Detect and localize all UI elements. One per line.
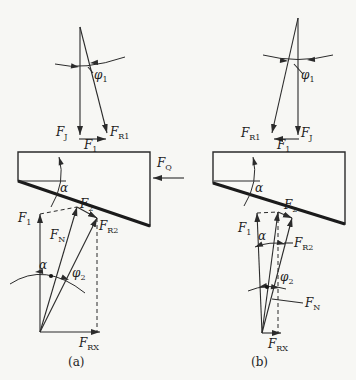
label-alpha-poly: α (39, 258, 47, 272)
label-fj: FJ (55, 125, 68, 141)
phi1-angle-arc (55, 57, 125, 66)
label-phi2: φ2 (72, 266, 86, 282)
label-phi2: φ2 (280, 270, 294, 286)
construction-dashed-top (40, 207, 77, 214)
wedge-clamping-force-diagram: φ1 FJ FR1 F1 α FQ (0, 0, 356, 380)
angle-vertex-dot (265, 285, 269, 289)
caption-a: (a) (68, 355, 85, 369)
label-fr1: FR1 (109, 125, 129, 141)
caption-b: (b) (251, 355, 268, 369)
fn-leader-line (272, 299, 303, 303)
figure-a-force-polygon: F1 FN F2 FR2 α φ2 FRX (a) (10, 197, 118, 369)
label-fj: FJ (300, 126, 313, 142)
arrowhead-icon (307, 57, 315, 63)
label-f1-poly: F1 (17, 211, 31, 227)
figure-a-wedge: α FQ (18, 152, 184, 226)
label-alpha-wedge: α (60, 181, 68, 195)
label-phi1: φ1 (94, 68, 108, 84)
label-alpha-poly: α (258, 229, 266, 243)
angle-vertex-dot (49, 274, 53, 278)
force-line-f2 (278, 212, 292, 218)
label-fr2: FR2 (293, 236, 313, 252)
figure-b-force-polygon: F2 F1 α FR2 φ2 FN FRX (b) (237, 198, 320, 369)
label-frx: FRX (78, 336, 99, 352)
figure-b-upper-triangle: φ1 FR1 F1 FJ (240, 18, 333, 154)
force-line-fr1 (272, 18, 298, 133)
label-alpha-wedge: α (255, 181, 263, 195)
figure-a-upper-triangle: φ1 FJ FR1 F1 (55, 27, 129, 154)
figure-a: φ1 FJ FR1 F1 α FQ (10, 27, 184, 369)
label-fr1: FR1 (240, 126, 260, 142)
label-phi1: φ1 (301, 68, 315, 84)
label-fn: FN (304, 296, 320, 312)
construction-dashed-top (257, 212, 278, 213)
label-fn: FN (49, 228, 65, 244)
diagram-page: φ1 FJ FR1 F1 α FQ (0, 0, 356, 380)
figure-b: φ1 FR1 F1 FJ α (213, 18, 345, 369)
label-frx: FRX (267, 337, 288, 353)
label-fq: FQ (156, 156, 172, 172)
label-f1-poly: F1 (237, 221, 251, 237)
figure-b-wedge: α (213, 152, 345, 224)
label-fr2: FR2 (98, 219, 118, 235)
